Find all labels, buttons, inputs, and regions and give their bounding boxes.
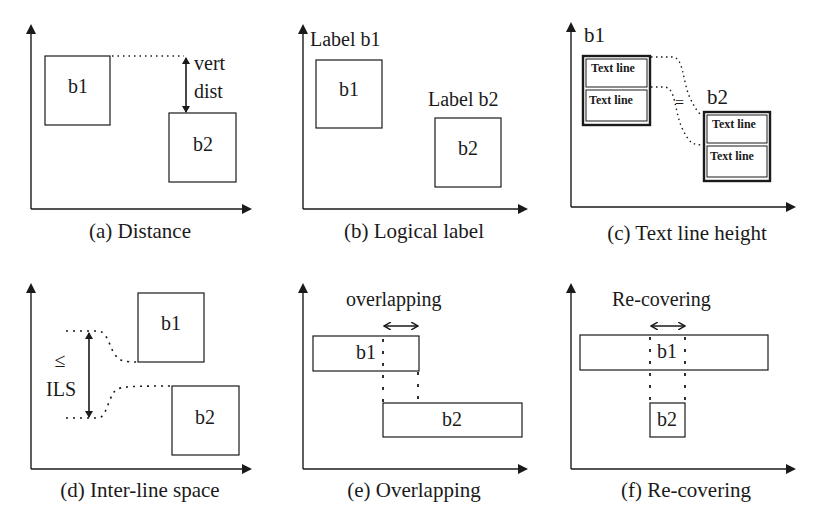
- box-b1-label: b1: [161, 312, 181, 334]
- panel-c-text-line-height: b1 Text line Text line b2 Text line Text…: [571, 23, 794, 245]
- text-line-b2-1: Text line: [712, 117, 757, 131]
- box-b2-label: b2: [193, 133, 213, 155]
- box-b1-label: b1: [657, 340, 677, 362]
- box-b1-title: b1: [584, 23, 605, 47]
- dotted-guides: [66, 331, 172, 418]
- label-b2: Label b2: [428, 88, 499, 110]
- box-b1-label: b1: [68, 75, 88, 97]
- panel-e-overlapping: overlapping b1 b2 (e) Overlapping: [303, 285, 526, 502]
- box-b2-label: b2: [442, 408, 462, 430]
- panel-b-logical-label: Label b1 b1 Label b2 b2 (b) Logical labe…: [303, 26, 526, 243]
- caption-c: (c) Text line height: [607, 221, 767, 245]
- text-line-b1-2: Text line: [589, 93, 634, 107]
- re-covering-annotation: Re-covering: [612, 288, 711, 311]
- overlapping-annotation: overlapping: [346, 288, 442, 311]
- box-b2-title: b2: [707, 85, 728, 109]
- annotation-vert: vert: [194, 52, 226, 74]
- panel-f-re-covering: Re-covering b1 b2 (f) Re-covering: [571, 285, 794, 502]
- axes: [571, 285, 794, 469]
- label-b1: Label b1: [310, 28, 381, 50]
- axes: [31, 285, 250, 469]
- caption-a: (a) Distance: [89, 219, 191, 243]
- caption-b: (b) Logical label: [344, 219, 484, 243]
- ils-label: ILS: [46, 378, 76, 400]
- box-b2-label: b2: [657, 408, 677, 430]
- equals-sign: =: [675, 94, 684, 111]
- box-b1-label: b1: [356, 341, 376, 363]
- caption-e: (e) Overlapping: [347, 478, 481, 502]
- axes: [303, 285, 526, 469]
- leq-symbol: ≤: [55, 349, 66, 371]
- figure-canvas: b1 b2 vert dist (a) Distance Label b1 b1…: [0, 0, 814, 526]
- text-line-b2-2: Text line: [710, 149, 755, 163]
- box-b2-label: b2: [458, 137, 478, 159]
- panel-d-inter-line-space: b1 b2 ≤ ILS (d) Inter-line space: [31, 285, 250, 502]
- caption-d: (d) Inter-line space: [60, 478, 219, 502]
- annotation-dist: dist: [194, 80, 223, 102]
- text-line-b1-1: Text line: [591, 61, 636, 75]
- box-b1-label: b1: [339, 78, 359, 100]
- caption-f: (f) Re-covering: [621, 478, 752, 502]
- panel-a-distance: b1 b2 vert dist (a) Distance: [31, 26, 250, 243]
- box-b2-label: b2: [195, 406, 215, 428]
